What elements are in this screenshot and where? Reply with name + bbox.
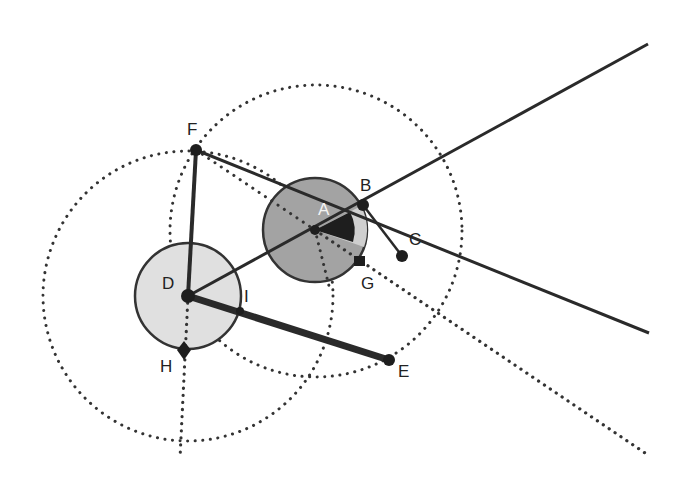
geometry-diagram: A B C D E F G H I [0,0,691,497]
label-g: G [361,274,374,293]
point-e [383,354,395,366]
label-f: F [187,120,197,139]
label-a: A [318,200,330,219]
point-c [396,250,408,262]
label-i: I [244,287,249,306]
ray-d-b [188,44,648,296]
point-f [190,144,202,156]
point-g [354,256,365,266]
label-b: B [360,176,371,195]
point-a [310,225,320,235]
label-e: E [398,362,409,381]
point-i [236,307,244,315]
label-c: C [409,230,421,249]
point-b [357,199,369,211]
point-d [181,289,195,303]
label-h: H [160,357,172,376]
label-d: D [162,274,174,293]
